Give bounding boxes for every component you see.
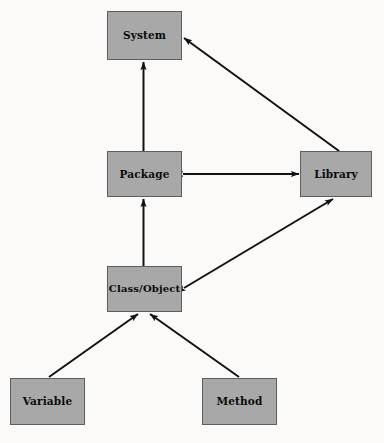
node-variable[interactable]: Variable bbox=[10, 378, 85, 425]
node-class-object-label: Class/Object bbox=[109, 284, 180, 294]
node-system[interactable]: System bbox=[107, 11, 182, 60]
diagram-edge-layer bbox=[0, 0, 384, 443]
diagram-canvas: System Package Library Class/Object Vari… bbox=[0, 0, 384, 443]
edge-library-to-system bbox=[184, 38, 339, 151]
node-variable-label: Variable bbox=[23, 396, 73, 407]
node-class-object[interactable]: Class/Object bbox=[107, 266, 182, 312]
node-method[interactable]: Method bbox=[202, 378, 277, 425]
node-package-label: Package bbox=[120, 169, 170, 180]
edge-variable-to-classobject bbox=[49, 314, 138, 377]
edge-classobject-library bbox=[184, 199, 333, 288]
node-method-label: Method bbox=[216, 396, 262, 407]
node-library-label: Library bbox=[314, 169, 358, 180]
node-system-label: System bbox=[123, 30, 166, 41]
edge-method-to-classobject bbox=[150, 314, 239, 377]
node-library[interactable]: Library bbox=[300, 151, 372, 197]
node-package[interactable]: Package bbox=[107, 151, 182, 197]
